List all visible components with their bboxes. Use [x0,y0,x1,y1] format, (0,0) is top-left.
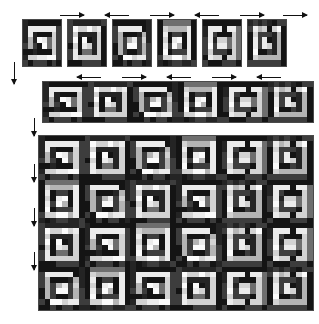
strip-row-arrow-4 [212,74,236,81]
tile-row-arrow-1 [60,12,84,19]
strip-row-arrow-5 [257,74,281,81]
tile-variant-canvas-2 [68,20,106,66]
full-pattern-grid [38,135,314,311]
left-arrow-strip [31,118,38,136]
tile-variant-canvas-5 [203,20,241,66]
tile-row-arrow-4 [195,12,219,19]
figure-canvas [0,0,319,324]
left-arrow-grid-1 [31,164,38,182]
strip-row-arrow-2 [122,74,146,81]
strip-row [42,81,314,123]
tile-row-arrow-5 [240,12,264,19]
tile-variant-1 [22,19,62,67]
tile-row-arrow-6 [283,12,307,19]
tile-row-arrow-2 [105,12,129,19]
left-arrow-grid-2 [31,208,38,226]
tile-variant-canvas-3 [113,20,151,66]
tile-row-arrow-3 [150,12,174,19]
left-arrow-top [11,62,18,84]
left-arrow-grid-3 [31,252,38,270]
tile-variant-canvas-1 [23,20,61,66]
strip-row-arrow-3 [167,74,191,81]
strip-row-arrow-1 [77,74,101,81]
tile-variant-canvas-6 [248,20,286,66]
tile-variant-2 [67,19,107,67]
tile-variant-4 [157,19,197,67]
grid-canvas [39,136,313,310]
tile-variant-5 [202,19,242,67]
tile-variant-6 [247,19,287,67]
tile-variant-canvas-4 [158,20,196,66]
tile-variant-3 [112,19,152,67]
strip-canvas [43,82,313,122]
